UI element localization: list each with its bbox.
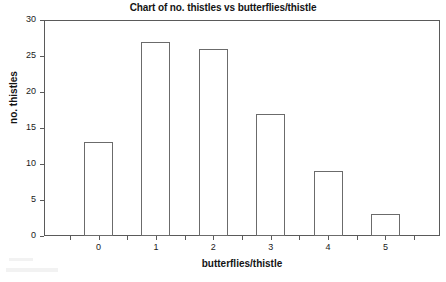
bar — [199, 49, 228, 236]
x-axis-tick-mark — [385, 236, 386, 240]
x-axis-minor-tick — [357, 236, 358, 240]
x-axis-minor-tick — [299, 236, 300, 240]
scan-artifact — [6, 268, 58, 272]
bar — [84, 142, 113, 236]
x-axis-tick-label: 3 — [256, 242, 286, 252]
x-axis-minor-tick — [414, 236, 415, 240]
x-axis-tick-mark — [328, 236, 329, 240]
y-axis-tick-label: 0 — [31, 230, 36, 240]
x-axis: 012345 — [44, 236, 440, 260]
chart-title: Chart of no. thistles vs butterflies/thi… — [0, 2, 446, 13]
x-axis-tick-label: 1 — [141, 242, 171, 252]
x-axis-minor-tick — [70, 236, 71, 240]
bar-series — [44, 20, 440, 236]
x-axis-tick-label: 4 — [313, 242, 343, 252]
y-axis-tick-label: 20 — [26, 86, 36, 96]
x-axis-tick-label: 0 — [84, 242, 114, 252]
y-axis-tick-label: 25 — [26, 50, 36, 60]
bar — [371, 214, 400, 236]
y-axis-title: no. thistles — [8, 33, 19, 163]
x-axis-title: butterflies/thistle — [44, 258, 440, 269]
y-axis-tick-label: 10 — [26, 158, 36, 168]
chart-container: Chart of no. thistles vs butterflies/thi… — [0, 0, 446, 282]
x-axis-minor-tick — [242, 236, 243, 240]
y-axis-tick-label: 15 — [26, 122, 36, 132]
x-axis-tick-mark — [99, 236, 100, 240]
x-axis-tick-label: 5 — [370, 242, 400, 252]
x-axis-minor-tick — [127, 236, 128, 240]
x-axis-tick-mark — [213, 236, 214, 240]
x-axis-minor-tick — [185, 236, 186, 240]
x-axis-tick-label: 2 — [198, 242, 228, 252]
bar — [314, 171, 343, 236]
scan-artifact — [9, 258, 33, 261]
x-axis-tick-mark — [271, 236, 272, 240]
bar — [141, 42, 170, 236]
bar — [256, 114, 285, 236]
y-axis-tick-label: 5 — [31, 194, 36, 204]
y-axis-tick-label: 30 — [26, 14, 36, 24]
x-axis-tick-mark — [156, 236, 157, 240]
